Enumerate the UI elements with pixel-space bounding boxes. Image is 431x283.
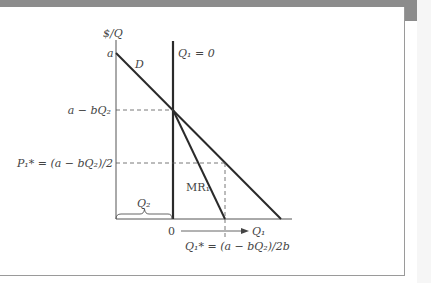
x-axis-label: Q₁ xyxy=(252,225,265,238)
intercept-label: a xyxy=(107,47,114,60)
mr-label: MR₁ xyxy=(186,181,210,194)
origin-label: 0 xyxy=(168,225,175,238)
arrow-head-icon xyxy=(241,228,249,234)
optimal-price-label: P₁* = (a − bQ₂)/2 xyxy=(16,157,113,170)
optimal-quantity-label: Q₁* = (a − bQ₂)/2b xyxy=(185,240,290,253)
demand-label: D xyxy=(134,58,144,71)
q2-brace-label: Q₂ xyxy=(137,197,150,210)
q1-zero-label: Q₁ = 0 xyxy=(178,47,215,60)
q2-brace xyxy=(116,209,172,219)
residual-price-label: a − bQ₂ xyxy=(68,104,111,117)
residual-demand-diagram: $/Q a D Q₁ = 0 a − bQ₂ P₁* = (a − bQ₂)/2… xyxy=(0,0,431,283)
y-axis-label: $/Q xyxy=(103,27,123,40)
demand-curve xyxy=(116,53,281,219)
marginal-revenue-curve xyxy=(173,110,225,219)
